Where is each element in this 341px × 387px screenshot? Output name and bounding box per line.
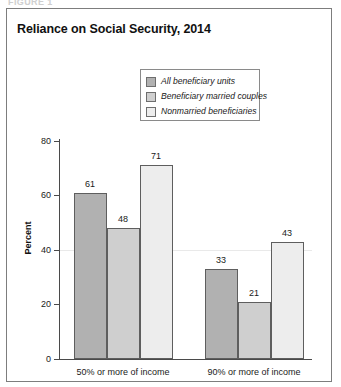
bar-g1-s1[interactable] [238, 302, 271, 359]
y-tick-label-80: 80 [25, 136, 51, 146]
bar-value-g1-s1: 21 [237, 288, 271, 298]
y-tick-mark-80 [54, 141, 59, 142]
bar-g1-s2[interactable] [271, 242, 304, 359]
bar-g1-s0[interactable] [205, 269, 238, 359]
bar-value-g0-s0: 61 [73, 179, 107, 189]
y-axis-line [59, 139, 60, 360]
y-tick-mark-0 [54, 359, 59, 360]
x-category-label-0: 50% or more of income [63, 367, 183, 377]
y-tick-mark-40 [54, 250, 59, 251]
bar-value-g0-s2: 71 [139, 151, 173, 161]
figure-frame: Reliance on Social Security, 2014 All be… [6, 8, 332, 382]
y-tick-mark-20 [54, 304, 59, 305]
bar-g0-s1[interactable] [107, 228, 140, 359]
y-tick-mark-60 [54, 195, 59, 196]
x-axis-line [59, 359, 312, 360]
y-tick-label-0: 0 [25, 354, 51, 364]
bar-g0-s2[interactable] [140, 165, 173, 359]
x-category-label-1: 90% or more of income [194, 367, 314, 377]
y-axis-title: Percent [23, 208, 33, 268]
bar-value-g0-s1: 48 [106, 214, 140, 224]
bar-value-g1-s0: 33 [204, 255, 238, 265]
bar-g0-s0[interactable] [74, 193, 107, 359]
y-tick-label-20: 20 [25, 299, 51, 309]
bar-value-g1-s2: 43 [270, 228, 304, 238]
y-tick-label-60: 60 [25, 190, 51, 200]
